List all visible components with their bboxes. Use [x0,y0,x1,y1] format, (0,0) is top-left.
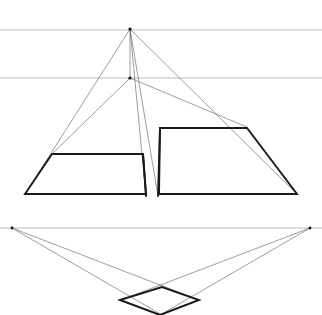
ray-node-to-right-panel-top [130,78,247,127]
plan-diamond [120,287,199,315]
plan-right-vanishing-ray-inner [121,228,310,300]
center-spine-left [143,154,146,196]
ray-node-to-left-panel-top [52,78,130,154]
perspective-drawing-canvas [0,0,322,315]
station-apex-node [128,27,131,30]
construction-rays-group [25,29,297,196]
right-panel-quad [159,128,297,194]
ray-apex-to-right-base [130,29,297,194]
plan-right-vp-node [309,227,312,230]
object-shapes-group [25,128,297,315]
plan-construction-rays-group [12,228,310,315]
left-panel-quad [25,154,146,194]
plan-left-vp-node [11,227,14,230]
plan-right-vanishing-ray-outer [160,228,310,315]
center-node-node [128,76,131,79]
plan-left-vanishing-ray-outer [12,228,162,315]
drawing-svg [0,0,322,315]
